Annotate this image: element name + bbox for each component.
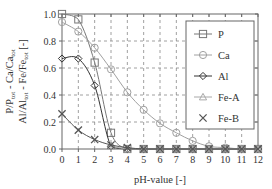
subscript: tot — [9, 49, 17, 56]
legend-label: Ca — [218, 50, 230, 61]
x-tick-label: 3 — [109, 154, 114, 165]
x-axis-label: pH-value [-] — [134, 174, 186, 185]
x-tick-label: 6 — [158, 154, 163, 165]
legend-label: Fe-B — [218, 113, 239, 124]
subscript: tot — [22, 52, 30, 59]
y-tick-label: 0.8 — [44, 36, 57, 47]
y-axis-label: P/Ptot - Ca/CatotAl/Altot - Fe/Fetot [-] — [4, 39, 30, 124]
data-point — [75, 127, 82, 134]
subscript: tot — [22, 92, 30, 99]
y-tick-label: 0.4 — [44, 90, 57, 101]
y-axis-label-line: P/Ptot - Ca/Catot — [4, 49, 17, 113]
x-tick-label: 2 — [92, 154, 97, 165]
y-tick-label: 0.6 — [44, 63, 57, 74]
x-tick-label: 10 — [220, 154, 230, 165]
y-axis-label-line: Al/Altot - Fe/Fetot [-] — [17, 39, 30, 124]
legend-label: P — [218, 29, 224, 40]
label-part: [-] — [17, 39, 28, 52]
subscript: tot — [9, 92, 17, 99]
x-tick-label: 12 — [253, 154, 263, 165]
x-tick-label: 5 — [141, 154, 146, 165]
label-part: - Ca/Ca — [4, 56, 15, 91]
x-tick-label: 4 — [125, 154, 130, 165]
x-tick-label: 0 — [60, 154, 65, 165]
x-tick-label: 11 — [237, 154, 247, 165]
line-chart: 01234567891011120.00.20.40.60.81.0 pH-va… — [0, 0, 272, 189]
x-tick-label: 7 — [174, 154, 179, 165]
x-tick-label: 8 — [190, 154, 195, 165]
x-tick-label: 1 — [76, 154, 81, 165]
legend: PCaAlFe-AFe-B — [186, 21, 254, 129]
legend-label: Al — [218, 71, 229, 82]
y-tick-label: 0.2 — [44, 117, 57, 128]
legend-label: Fe-A — [218, 92, 240, 103]
label-part: P/P — [4, 99, 15, 114]
x-tick-label: 9 — [207, 154, 212, 165]
y-tick-label: 1.0 — [44, 9, 57, 20]
label-part: - Fe/Fe — [17, 59, 28, 92]
label-part: Al/Al — [17, 100, 28, 124]
y-tick-label: 0.0 — [44, 144, 57, 155]
